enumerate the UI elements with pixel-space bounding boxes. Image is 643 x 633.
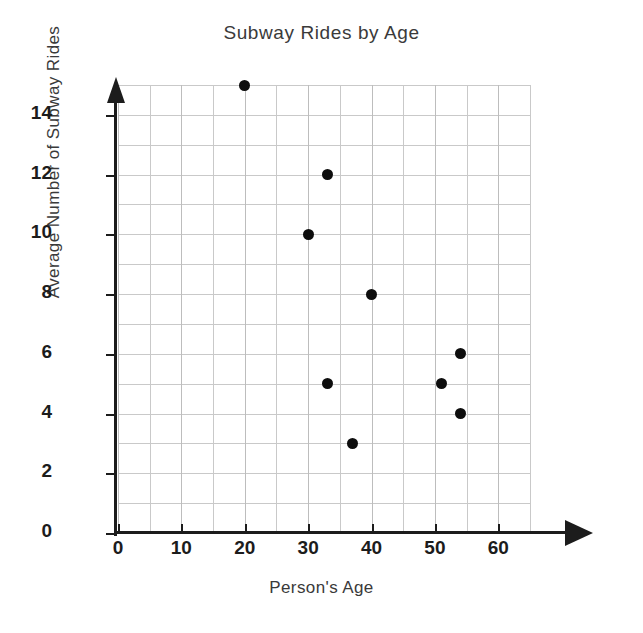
gridline-horizontal [118,324,530,325]
x-axis-tick-label: 10 [158,537,204,559]
y-axis-tick [106,354,116,356]
x-axis-tick [245,524,247,533]
gridline-horizontal [118,204,530,205]
x-axis-tick-label: 20 [222,537,268,559]
x-axis-tick-label: 40 [349,537,395,559]
gridline-vertical [181,85,182,533]
y-axis-tick [106,533,116,535]
x-axis-tick [118,524,120,533]
y-axis-arrow-icon [107,77,125,103]
data-point [239,80,250,91]
gridline-vertical [372,85,373,533]
data-point [303,229,314,240]
x-axis-tick [308,524,310,533]
data-point [322,378,333,389]
plot-area [118,85,530,533]
y-axis-tick [106,294,116,296]
y-axis-line [114,96,117,536]
gridline-horizontal [118,85,530,86]
gridline-vertical [276,85,277,533]
gridline-vertical [308,85,309,533]
y-axis-tick-label: 6 [6,341,52,363]
y-axis-tick-label: 0 [6,520,52,542]
y-axis-tick-label: 8 [6,281,52,303]
x-axis-arrow-icon [565,520,593,546]
gridline-vertical [150,85,151,533]
y-axis-tick-label: 4 [6,401,52,423]
x-axis-tick [181,524,183,533]
gridline-horizontal [118,503,530,504]
gridline-vertical [213,85,214,533]
y-axis-tick [106,473,116,475]
gridline-vertical [530,85,531,533]
x-axis-tick-label: 60 [475,537,521,559]
gridline-horizontal [118,234,530,235]
gridline-horizontal [118,354,530,355]
gridline-horizontal [118,115,530,116]
gridline-horizontal [118,473,530,474]
gridline-vertical [245,85,246,533]
gridline-vertical [435,85,436,533]
y-axis-tick-label: 12 [6,162,52,184]
gridline-horizontal [118,145,530,146]
data-point [436,378,447,389]
data-point [455,408,466,419]
x-axis-tick [498,524,500,533]
x-axis-tick-label: 30 [285,537,331,559]
y-axis-tick [106,175,116,177]
data-point [347,438,358,449]
y-axis-tick-label: 10 [6,221,52,243]
data-point [366,289,377,300]
gridline-vertical [403,85,404,533]
x-axis-title: Person's Age [0,578,643,598]
gridline-horizontal [118,443,530,444]
x-axis-tick-label: 50 [412,537,458,559]
y-axis-tick-label: 2 [6,460,52,482]
chart-title: Subway Rides by Age [0,22,643,44]
scatter-chart: Subway Rides by Age Average Number of Su… [0,0,643,633]
data-point [455,348,466,359]
gridline-horizontal [118,264,530,265]
gridline-vertical [340,85,341,533]
y-axis-tick [106,234,116,236]
x-axis-tick-label: 0 [95,537,141,559]
y-axis-tick-label: 14 [6,102,52,124]
x-axis-tick [435,524,437,533]
x-axis-tick [372,524,374,533]
gridline-horizontal [118,414,530,415]
y-axis-tick [106,115,116,117]
gridline-vertical [467,85,468,533]
gridline-horizontal [118,294,530,295]
data-point [322,169,333,180]
gridline-vertical [118,85,119,533]
y-axis-tick [106,414,116,416]
gridline-vertical [498,85,499,533]
